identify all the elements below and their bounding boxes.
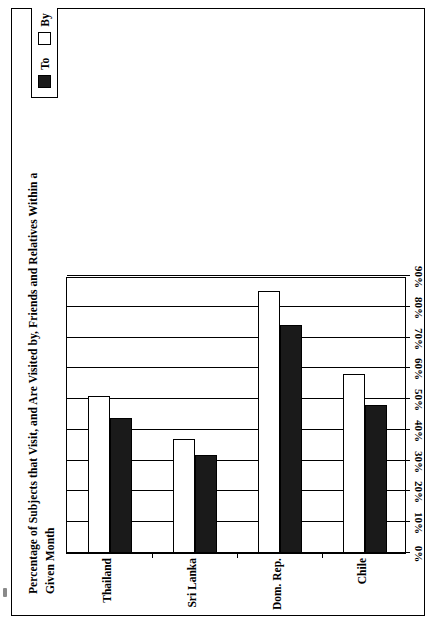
value-axis-tick-label: 40% (413, 417, 425, 445)
value-axis-tick-label: 50% (413, 386, 425, 414)
category-axis-tick (322, 553, 323, 558)
category-label-thailand: Thailand (101, 558, 113, 616)
bar-to-chile (365, 405, 387, 553)
category-label-sri-lanka: Sri Lanka (186, 558, 198, 616)
chart-rotation-wrapper: Percentage of Subjects that Visit, and A… (11, 8, 425, 616)
value-axis-tick-label: 90% (413, 263, 425, 291)
value-axis-tick (405, 398, 410, 399)
value-axis-tick (405, 521, 410, 522)
chart-legend: To By (31, 8, 58, 98)
value-axis-tick-label: 20% (413, 478, 425, 506)
value-axis-tick (405, 429, 410, 430)
value-axis-tick (405, 460, 410, 461)
value-axis-tick (405, 367, 410, 368)
bar-to-sri-lanka (195, 455, 217, 553)
legend-label-by: By (39, 13, 51, 26)
value-axis-tick (405, 490, 410, 491)
value-axis-tick (405, 306, 410, 307)
gridline (67, 306, 405, 307)
bar-by-thailand (88, 396, 110, 553)
legend-swatch-to-icon (38, 75, 51, 88)
plot-area (66, 277, 406, 554)
category-axis-tick (237, 553, 238, 558)
legend-item-by: By (38, 13, 51, 44)
chart-title: Percentage of Subjects that Visit, and A… (25, 164, 58, 594)
scan-artifact-mark (3, 588, 7, 597)
value-axis-tick-label: 70% (413, 325, 425, 353)
gridline (67, 367, 405, 368)
bar-by-chile (343, 375, 365, 554)
legend-label-to: To (39, 58, 51, 70)
bar-by-sri-lanka (173, 439, 195, 553)
value-axis-tick-label: 10% (413, 509, 425, 537)
value-axis-tick (405, 275, 410, 276)
category-axis-tick (152, 553, 153, 558)
bar-to-dom-rep (280, 325, 302, 553)
value-axis-tick (405, 337, 410, 338)
value-axis-tick-label: 30% (413, 448, 425, 476)
value-axis-tick (405, 552, 410, 553)
value-axis-tick-label: 80% (413, 294, 425, 322)
plot-inner (67, 278, 405, 553)
category-label-dom-rep: Dom. Rep. (271, 558, 283, 616)
chart-canvas: Percentage of Subjects that Visit, and A… (11, 8, 425, 616)
value-axis-tick-label: 0% (413, 540, 425, 568)
legend-swatch-by-icon (38, 32, 51, 45)
bar-to-thailand (110, 418, 132, 553)
bar-by-dom-rep (258, 291, 280, 553)
gridline (67, 275, 405, 276)
gridline (67, 337, 405, 338)
value-axis-tick-label: 60% (413, 355, 425, 383)
legend-item-to: To (38, 58, 51, 88)
category-label-chile: Chile (356, 558, 368, 616)
